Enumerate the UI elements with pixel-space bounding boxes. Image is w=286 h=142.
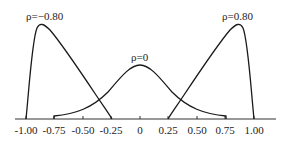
- tick-label: 0.50: [187, 124, 207, 136]
- tick-label: 1.00: [244, 124, 264, 136]
- label-rho-zero: ρ=0: [131, 51, 149, 63]
- curve-rho-0: [54, 65, 226, 119]
- density-chart: ρ=−0.80 ρ=0 ρ=0.80 -1.00 -0.75 -0.50 -0.…: [0, 0, 286, 142]
- tick-label: 0: [137, 124, 143, 136]
- curve-rho-pos-0-80: [168, 24, 254, 119]
- tick-label: 0.75: [215, 124, 235, 136]
- label-rho-pos: ρ=0.80: [222, 10, 253, 22]
- tick-label: -0.25: [100, 124, 123, 136]
- tick-label: -0.50: [72, 124, 95, 136]
- curve-rho-neg-0-80: [26, 24, 112, 119]
- label-rho-neg: ρ=−0.80: [26, 10, 64, 22]
- tick-label: -1.00: [15, 124, 38, 136]
- x-tick-labels: -1.00 -0.75 -0.50 -0.25 0 0.25 0.50 0.75…: [15, 124, 265, 136]
- tick-label: 0.25: [158, 124, 178, 136]
- tick-label: -0.75: [43, 124, 66, 136]
